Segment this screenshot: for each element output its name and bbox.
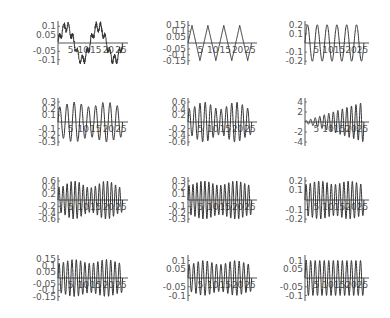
plots-canvas: 0.10.05-0.05-0.15101520250.150.10.05-0.0… (0, 0, 390, 318)
x-tick-label: 15 (334, 202, 345, 212)
x-tick-label: 20 (345, 45, 357, 55)
y-tick-label: -2 (294, 127, 303, 137)
chart-panel-10: 0.150.10.05-0.05-0.1-0.15510152025 (33, 254, 128, 301)
x-tick-label: 25 (115, 45, 126, 55)
y-tick-label: -0.1 (285, 205, 303, 215)
y-tick-label: -0.3 (38, 137, 56, 147)
y-tick-label: -0.15 (163, 56, 186, 66)
y-tick-label: 2 (297, 107, 303, 117)
chart-panel-1: 0.10.05-0.05-0.1510152025 (33, 21, 128, 65)
y-tick-label: 0.2 (172, 110, 186, 120)
signal-line (305, 103, 364, 142)
y-tick-label: -0.1 (168, 291, 186, 301)
chart-panel-4: 0.30.20.1-0.1-0.2-0.3510152025 (38, 97, 128, 147)
x-tick-label: 10 (207, 202, 219, 212)
y-tick-label: 0.05 (36, 267, 56, 277)
chart-panel-7: 0.60.40.2-0.2-0.4-0.6510152025 (38, 176, 128, 224)
y-tick-label: 0.1 (42, 110, 56, 120)
y-tick-label: 0.05 (36, 30, 56, 40)
x-tick-label: 5 (68, 45, 74, 55)
y-tick-label: 0.05 (166, 264, 186, 274)
x-tick-label: 15 (219, 280, 230, 290)
x-tick-label: 15 (90, 124, 101, 134)
chart-panel-6: 42-2-4510152025 (294, 97, 369, 147)
y-tick-label: -0.3 (168, 214, 186, 224)
y-tick-label: -0.6 (168, 137, 186, 147)
y-tick-label: -0.1 (285, 291, 303, 301)
signal-line (305, 181, 364, 219)
y-tick-label: -4 (294, 137, 303, 147)
signal-line (188, 181, 252, 219)
chart-panel-9: 0.20.1-0.1-0.2510152025 (285, 176, 369, 224)
chart-panel-2: 0.150.10.05-0.05-0.1-0.15510152025 (163, 20, 257, 65)
chart-panel-8: 0.30.20.1-0.1-0.2-0.3510152025 (168, 176, 257, 224)
chart-panel-5: 0.60.40.2-0.2-0.4-0.6510152025 (168, 97, 257, 147)
x-tick-label: 15 (90, 202, 101, 212)
y-tick-label: -0.6 (38, 214, 56, 224)
y-tick-label: 0.2 (42, 189, 56, 199)
x-tick-label: 10 (77, 202, 89, 212)
y-tick-label: 0.05 (283, 264, 303, 274)
chart-panel-12: 0.10.05-0.05-0.1510152025 (280, 255, 369, 301)
y-tick-label: -0.2 (285, 56, 303, 66)
y-tick-label: 0.05 (166, 32, 186, 42)
chart-panel-3: 0.20.1-0.1-0.2510152025 (285, 20, 369, 66)
y-tick-label: 4 (297, 97, 303, 107)
x-tick-label: 15 (90, 45, 101, 55)
small-multiples-grid: 0.10.05-0.05-0.15101520250.150.10.05-0.0… (0, 0, 390, 318)
y-tick-label: -0.2 (285, 214, 303, 224)
y-tick-label: 0.1 (289, 185, 303, 195)
y-tick-label: 0.1 (289, 29, 303, 39)
x-tick-label: 25 (357, 45, 368, 55)
y-tick-label: 0.1 (172, 189, 186, 199)
signal-line (305, 261, 364, 296)
y-tick-label: -0.15 (33, 292, 56, 302)
x-tick-label: 5 (198, 280, 204, 290)
chart-panel-11: 0.10.05-0.05-0.1510152025 (163, 255, 257, 301)
signal-line (58, 181, 123, 219)
signal-line (188, 261, 252, 296)
y-tick-label: 0.2 (289, 176, 303, 186)
x-tick-label: 25 (115, 124, 126, 134)
x-tick-label: 5 (314, 202, 320, 212)
y-tick-label: -0.1 (38, 55, 56, 65)
x-tick-label: 15 (219, 202, 230, 212)
